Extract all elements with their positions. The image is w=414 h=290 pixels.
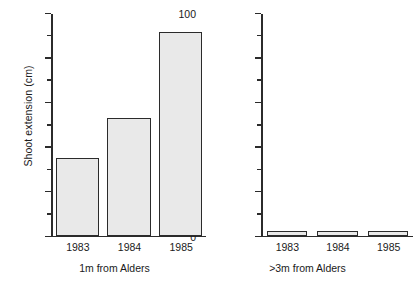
y-tick-50-right (257, 124, 261, 126)
bar-group-right (262, 14, 413, 236)
y-tick-10 (47, 213, 51, 215)
x-axis-line-right (261, 236, 413, 238)
bar-slot-1984-right (312, 14, 362, 236)
bar-slot-1985-left (155, 14, 206, 236)
category-labels-right: 1983 1984 1985 (262, 241, 414, 253)
bar-chart-figure: Shoot extension (cm) 100 80 60 40 20 0 (0, 0, 414, 290)
y-tick-100 (45, 13, 51, 15)
bar-1984-left (107, 118, 150, 235)
category-label-1984-right: 1984 (313, 241, 364, 253)
category-label-1985-left: 1985 (155, 241, 207, 253)
y-tick-60 (45, 102, 51, 104)
bar-1983-right (267, 231, 307, 235)
plot-area-right (261, 14, 413, 237)
x-axis-label-left: 1m from Alders (22, 262, 207, 274)
panel-3m-from-alders: 1983 1984 1985 >3m from Alders (210, 0, 414, 290)
category-label-1983-left: 1983 (52, 241, 104, 253)
y-tick-60-right (255, 102, 261, 104)
y-tick-70 (47, 79, 51, 81)
category-label-1984-left: 1984 (104, 241, 156, 253)
y-tick-20-right (255, 191, 261, 193)
y-tick-70-right (257, 79, 261, 81)
y-tick-40 (45, 146, 51, 148)
y-tick-90-right (257, 35, 261, 37)
category-label-1983-right: 1983 (262, 241, 313, 253)
bar-slot-1983-right (262, 14, 312, 236)
y-tick-100-right (255, 13, 261, 15)
bar-slot-1985-right (363, 14, 413, 236)
y-tick-30-right (257, 169, 261, 171)
y-tick-20 (45, 191, 51, 193)
y-tick-0 (45, 236, 51, 238)
bar-group-left (52, 14, 206, 236)
bar-1983-left (56, 158, 99, 236)
panel-1m-from-alders: 100 80 60 40 20 0 1983 1984 1985 (0, 0, 210, 290)
y-tick-0-right (255, 236, 261, 238)
y-tick-80-right (255, 57, 261, 59)
category-labels-left: 1983 1984 1985 (52, 241, 207, 253)
bar-slot-1983-left (52, 14, 103, 236)
x-axis-label-right: >3m from Alders (230, 262, 385, 274)
bar-slot-1984-left (103, 14, 154, 236)
bar-1985-right (368, 231, 408, 235)
bar-1984-right (317, 231, 357, 235)
y-tick-30 (47, 169, 51, 171)
y-tick-90 (47, 35, 51, 37)
y-tick-40-right (255, 146, 261, 148)
plot-area-left: 100 80 60 40 20 0 (51, 14, 206, 237)
y-tick-10-right (257, 213, 261, 215)
y-tick-80 (45, 57, 51, 59)
category-label-1985-right: 1985 (363, 241, 414, 253)
x-axis-line-left (51, 236, 206, 238)
bar-1985-left (159, 32, 202, 236)
y-tick-50 (47, 124, 51, 126)
